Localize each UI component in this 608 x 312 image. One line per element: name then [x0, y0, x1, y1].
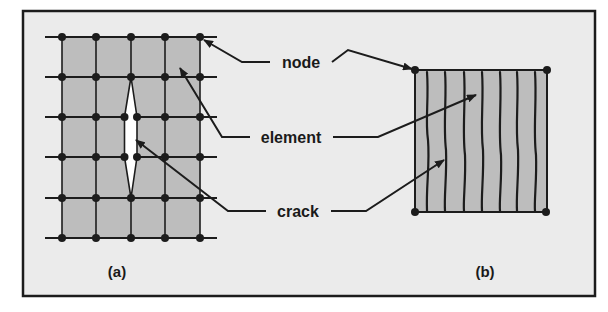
- label-node: node: [282, 54, 320, 71]
- fem-crack-model-figure: (a) (b) node: [0, 0, 608, 312]
- label-crack: crack: [277, 203, 319, 220]
- panel-a-caption: (a): [108, 263, 126, 280]
- label-element: element: [261, 129, 322, 146]
- element-fill: [415, 70, 547, 212]
- panel-b-caption: (b): [475, 263, 494, 280]
